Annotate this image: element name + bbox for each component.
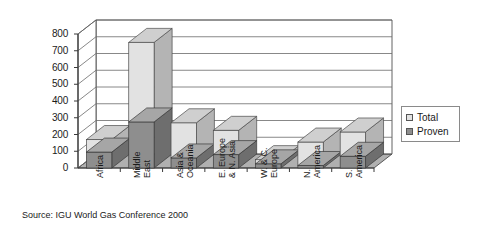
legend-item-total: Total [406,110,455,124]
y-axis-tick-label: 300 [42,113,68,123]
x-axis-label-line: East [142,151,152,178]
x-axis-label-line: America [354,145,364,178]
y-axis-tick-label: 800 [42,29,68,39]
y-axis-tick-label: 100 [42,146,68,156]
legend-item-proven: Proven [406,124,455,138]
y-axis-tick-label: 700 [42,46,68,56]
source-note: Source: IGU World Gas Conference 2000 [22,210,188,220]
chart-legend: Total Proven [401,106,460,142]
x-axis-label-line: Africa [95,155,105,178]
y-axis-tick-label: 0 [42,163,68,173]
x-axis-label-line: Oceania [185,144,195,178]
x-axis-label-line: Europe [269,147,279,178]
legend-swatch-proven-icon [406,128,413,135]
x-axis-label-line: W. & C. [259,147,269,178]
x-axis-label-line: & N. Asia [227,138,237,178]
x-axis-category-label: Africa [95,155,105,178]
x-axis-category-label: N.America [302,145,322,178]
y-axis-tick-label: 400 [42,96,68,106]
bar-group [129,28,172,168]
x-axis-label-line: Middle [132,151,142,178]
legend-label-proven: Proven [417,126,449,137]
y-axis-tick-label: 600 [42,63,68,73]
x-axis-label-line: E. Europe [217,138,227,178]
gas-reserves-bar-chart: 8007006005004003002001000 AfricaMiddleEa… [0,0,478,232]
y-axis-tick-label: 200 [42,130,68,140]
x-axis-label-line: S. [344,145,354,178]
x-axis-label-line: N. [302,145,312,178]
x-axis-category-label: MiddleEast [132,151,152,178]
x-axis-label-line: Asia & [175,144,185,178]
x-axis-category-label: W. & C.Europe [259,147,279,178]
x-axis-category-label: Asia &Oceania [175,144,195,178]
legend-label-total: Total [417,112,438,123]
y-axis-tick-label: 500 [42,79,68,89]
legend-swatch-total-icon [406,114,413,121]
x-axis-category-label: S.America [344,145,364,178]
x-axis-label-line: America [312,145,322,178]
x-axis-category-label: E. Europe& N. Asia [217,138,237,178]
